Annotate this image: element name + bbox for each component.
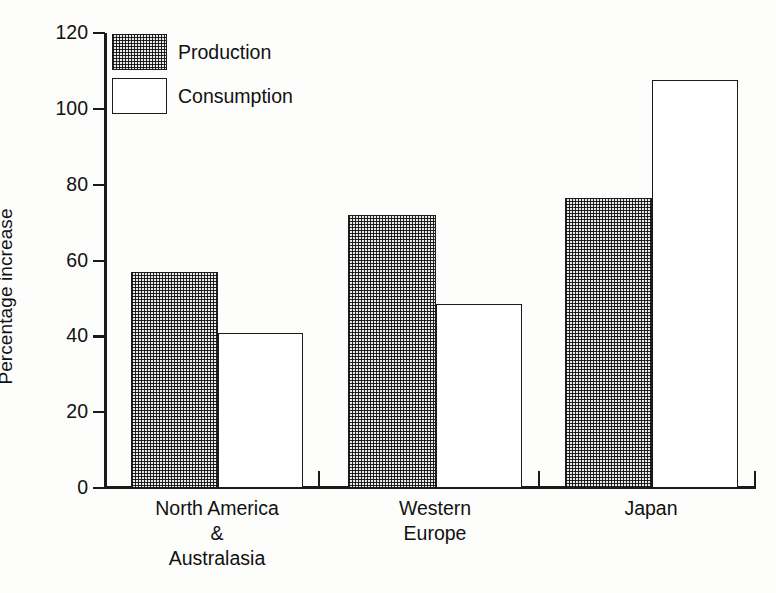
bar-production-2: [565, 198, 652, 488]
y-axis-title: Percentage increase: [0, 0, 56, 593]
legend-swatch-production-icon: [112, 34, 167, 70]
bar-production-0: [131, 272, 218, 488]
x-category-label-0: North America&Australasia: [107, 496, 327, 571]
y-tick-label: 120: [18, 21, 88, 44]
legend-item-consumption: Consumption: [112, 78, 293, 114]
y-tick-label: 80: [18, 173, 88, 196]
y-axis-title-text: Percentage increase: [0, 208, 17, 384]
bar-production-1: [348, 215, 436, 488]
y-tick-label: 60: [18, 249, 88, 272]
x-category-line: Japan: [541, 496, 761, 521]
bar-chart-figure: Percentage increase 020406080100120 Nort…: [0, 0, 776, 593]
legend-label-consumption: Consumption: [178, 85, 293, 108]
legend-swatch-consumption-icon: [112, 78, 167, 114]
x-category-line: North America: [107, 496, 327, 521]
legend-item-production: Production: [112, 34, 293, 70]
y-tick-label: 40: [18, 324, 88, 347]
bar-consumption-0: [218, 333, 303, 488]
x-category-line: &: [107, 521, 327, 546]
x-category-label-2: Japan: [541, 496, 761, 521]
x-category-line: Australasia: [107, 546, 327, 571]
x-category-line: Europe: [325, 521, 545, 546]
chart-legend: Production Consumption: [112, 34, 293, 122]
y-tick-label: 0: [18, 476, 88, 499]
y-tick-label: 20: [18, 400, 88, 423]
y-tick-label: 100: [18, 97, 88, 120]
bar-consumption-2: [652, 80, 738, 488]
x-category-label-1: WesternEurope: [325, 496, 545, 546]
x-category-line: Western: [325, 496, 545, 521]
legend-label-production: Production: [178, 41, 271, 64]
bar-consumption-1: [436, 304, 522, 488]
